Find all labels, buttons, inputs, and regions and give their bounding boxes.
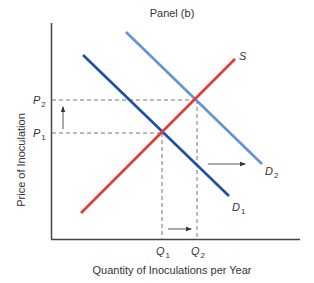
chart-title: Panel (b) bbox=[150, 7, 195, 19]
p1-tick-label: P1 bbox=[33, 127, 46, 142]
supply-label: S bbox=[239, 50, 247, 62]
x-axis-label: Quantity of Inoculations per Year bbox=[93, 264, 252, 276]
q1-tick-label: Q1 bbox=[156, 245, 171, 260]
demand-curve-d1 bbox=[83, 55, 229, 196]
d1-label: D1 bbox=[232, 201, 246, 216]
y-axis-label: Price of Inoculation bbox=[15, 113, 27, 207]
p2-tick-label: P2 bbox=[33, 94, 46, 109]
d2-label: D2 bbox=[265, 165, 279, 180]
supply-curve-s bbox=[81, 59, 235, 213]
q2-tick-label: Q2 bbox=[191, 245, 206, 260]
chart-canvas: Panel (b) S D1 D2 P2 P1 Q1 Q2 Quantity o… bbox=[0, 0, 314, 283]
